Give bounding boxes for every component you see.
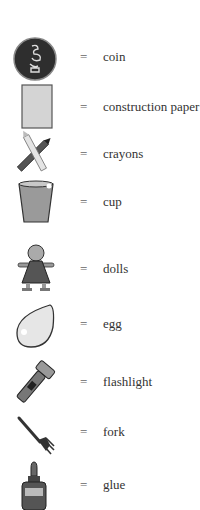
construction-paper-icon <box>10 82 60 132</box>
flashlight-icon <box>10 357 60 407</box>
egg-icon <box>10 300 60 350</box>
legend-label: flashlight <box>103 374 152 390</box>
equals-sign: = <box>80 99 87 115</box>
crayons-icon <box>10 130 60 180</box>
fork-icon <box>10 414 60 464</box>
coin-icon <box>10 34 60 84</box>
legend-label: cup <box>103 194 122 210</box>
cup-icon <box>10 178 60 228</box>
legend-row-cup: = cup <box>0 178 199 228</box>
legend-row-flashlight: = flashlight <box>0 357 199 407</box>
legend-row-glue: = glue <box>0 460 199 510</box>
equals-sign: = <box>80 146 87 162</box>
equals-sign: = <box>80 49 87 65</box>
legend-row-dolls: = dolls <box>0 243 199 293</box>
equals-sign: = <box>80 316 87 332</box>
doll-icon <box>10 243 60 293</box>
legend-row-construction-paper: = construction paper <box>0 82 199 132</box>
equals-sign: = <box>80 477 87 493</box>
equals-sign: = <box>80 374 87 390</box>
legend-row-egg: = egg <box>0 300 199 350</box>
legend-row-crayons: = crayons <box>0 130 199 180</box>
legend-label: coin <box>103 49 125 65</box>
equals-sign: = <box>80 424 87 440</box>
legend-label: crayons <box>103 146 143 162</box>
legend-label: dolls <box>103 261 128 277</box>
legend-row-coin: = coin <box>0 34 199 84</box>
legend-label: egg <box>103 316 122 332</box>
glue-icon <box>10 460 60 510</box>
equals-sign: = <box>80 194 87 210</box>
legend-label: glue <box>103 477 125 493</box>
equals-sign: = <box>80 261 87 277</box>
legend-label: construction paper <box>103 99 199 115</box>
legend-row-fork: = fork <box>0 414 199 464</box>
legend-label: fork <box>103 424 125 440</box>
